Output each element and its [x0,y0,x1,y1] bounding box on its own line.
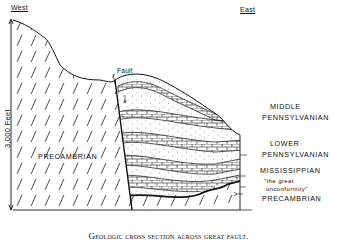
precambrian-west-block [13,20,132,210]
unconformity-label-1: "the great [264,178,294,184]
mississippian-label: MISSISSIPPIAN [260,167,321,174]
middle-pennsylvanian-label-2: PENNSYLVANIAN [262,114,329,121]
figure-caption: Geologic cross section across great faul… [0,231,337,241]
lower-pennsylvanian-label-2: PENNSYLVANIAN [262,151,329,158]
middle-pennsylvanian-label-1: MIDDLE [270,103,301,110]
precambrian-east-label: PRECAMBRIAN [262,195,321,202]
west-label: West [11,4,28,11]
precambrian-west-label: PRECAMBRIAN [38,153,97,160]
unconformity-label-2: unconformity" [266,186,308,192]
fault-label: Fault [117,68,133,75]
east-label: East [240,6,255,13]
lower-pennsylvanian-label-1: LOWER [270,140,299,147]
scale-label: 3,000 Feet [3,109,12,148]
geologic-cross-section: West East Fault 3,000 Feet PRECAMBRIAN M… [0,0,337,246]
cross-section-drawing [0,0,337,246]
